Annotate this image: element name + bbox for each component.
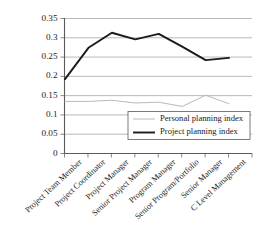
y-tick-label: 0.3 — [46, 32, 58, 42]
series-line-personal-planning-index — [65, 95, 229, 106]
chart-container: 00.050.10.150.20.250.30.35 Project Team … — [0, 0, 269, 244]
y-tick-label: 0.2 — [46, 70, 58, 80]
legend-label-2: Project planning index — [160, 126, 239, 136]
line-chart: 00.050.10.150.20.250.30.35 Project Team … — [0, 0, 269, 244]
y-tick-label: 0.35 — [41, 13, 57, 23]
series-line-project-planning-index — [65, 33, 229, 79]
y-tick-label: 0.25 — [41, 51, 57, 61]
y-tick-label: 0 — [53, 148, 58, 158]
y-tick-label: 0.15 — [41, 90, 57, 100]
y-tick-label: 0.05 — [41, 128, 57, 138]
y-tick-labels-group: 00.050.10.150.20.250.30.35 — [41, 13, 57, 158]
legend-label-1: Personal planning index — [160, 113, 244, 123]
x-tick-labels-group: Project Team MemberProject CoordinatorPr… — [23, 157, 248, 221]
y-tick-label: 0.1 — [46, 109, 58, 119]
legend[interactable]: Personal planning indexProject planning … — [128, 112, 250, 140]
